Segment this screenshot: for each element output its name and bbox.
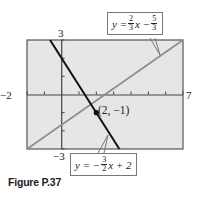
y-max-label: 3 bbox=[58, 27, 64, 39]
eq2-rest: x + 2 bbox=[108, 159, 131, 171]
x-min-label: −2 bbox=[0, 89, 12, 101]
fraction: 23 bbox=[128, 15, 134, 32]
equation-label-2: y = − 32 x + 2 bbox=[70, 153, 137, 176]
x-max-label: 7 bbox=[186, 89, 192, 101]
equation-label-1: y = 23 x − 53 bbox=[107, 12, 163, 35]
point-label: (2, −1) bbox=[98, 104, 129, 116]
figure-caption: Figure P.37 bbox=[8, 176, 61, 188]
eq1-mid: x − bbox=[135, 18, 150, 30]
y-min-label: −3 bbox=[53, 150, 65, 162]
eq2-lhs: y = − bbox=[75, 159, 100, 171]
fraction: 53 bbox=[151, 15, 157, 32]
eq1-lhs: y = bbox=[112, 18, 127, 30]
fraction: 32 bbox=[101, 156, 107, 173]
